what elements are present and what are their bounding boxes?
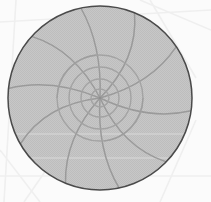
circular-web-diagram [0, 0, 211, 202]
figure-canvas [0, 0, 211, 202]
web-center-point [99, 97, 101, 99]
